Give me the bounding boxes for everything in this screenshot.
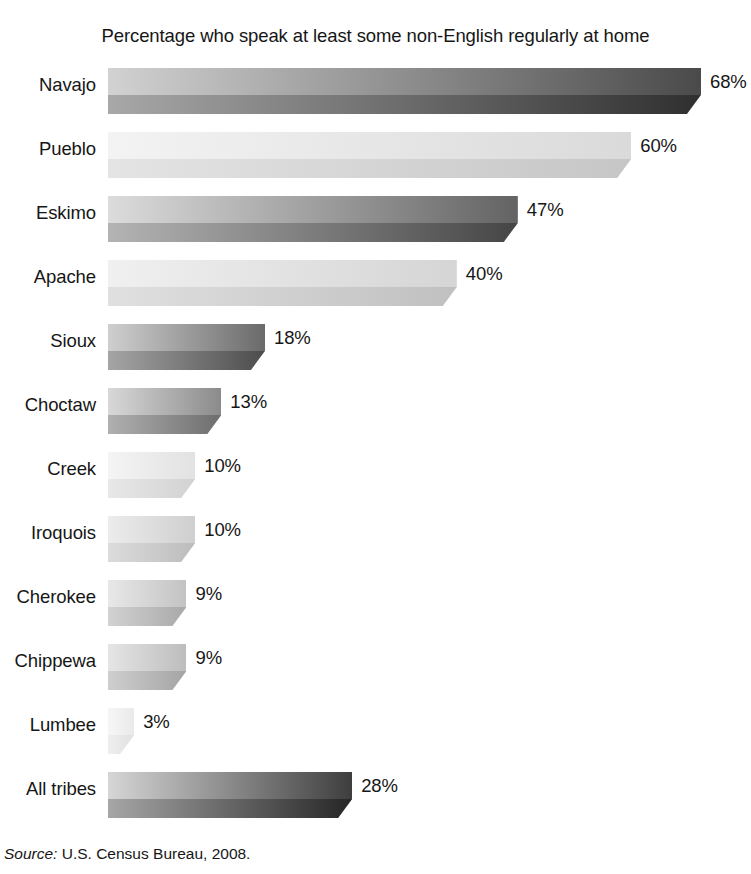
bar[interactable]	[108, 772, 352, 818]
bar-row: Cherokee9%	[0, 574, 751, 630]
bar-bottom-face	[108, 607, 186, 626]
bar-row: Pueblo60%	[0, 126, 751, 182]
bar-value-label: 10%	[204, 455, 241, 477]
bar-top-face	[108, 132, 631, 159]
bar-top-face	[108, 708, 134, 735]
bar-value-label: 28%	[361, 775, 398, 797]
bar-top-face	[108, 196, 518, 223]
bar-row: Chippewa9%	[0, 638, 751, 694]
bar-value-label: 60%	[640, 135, 677, 157]
bar-row: Navajo68%	[0, 62, 751, 118]
bar-category-label: Eskimo	[0, 202, 96, 224]
bar-value-label: 13%	[230, 391, 267, 413]
bar-category-label: Iroquois	[0, 522, 96, 544]
bar[interactable]	[108, 644, 186, 690]
bar-bottom-face	[108, 223, 518, 242]
bar[interactable]	[108, 388, 221, 434]
bar-category-label: Chippewa	[0, 650, 96, 672]
bar-bottom-face	[108, 351, 265, 370]
bar[interactable]	[108, 516, 195, 562]
bar-value-label: 18%	[274, 327, 311, 349]
bar-bottom-face	[108, 735, 134, 754]
bar-bottom-face	[108, 287, 457, 306]
bar-value-label: 9%	[195, 647, 222, 669]
bar-row: Choctaw13%	[0, 382, 751, 438]
bar-bottom-face	[108, 479, 195, 498]
bar-row: All tribes28%	[0, 766, 751, 822]
chart-title: Percentage who speak at least some non-E…	[0, 25, 751, 47]
bar[interactable]	[108, 324, 265, 370]
bar-category-label: All tribes	[0, 778, 96, 800]
source-label: Source:	[4, 845, 57, 862]
bar-value-label: 10%	[204, 519, 241, 541]
bar-category-label: Sioux	[0, 330, 96, 352]
bar-top-face	[108, 324, 265, 351]
bar-top-face	[108, 68, 701, 95]
bar-top-face	[108, 452, 195, 479]
bar-row: Creek10%	[0, 446, 751, 502]
bar-category-label: Cherokee	[0, 586, 96, 608]
bar-category-label: Lumbee	[0, 714, 96, 736]
bar[interactable]	[108, 452, 195, 498]
bar-value-label: 47%	[527, 199, 564, 221]
source-note: Source: U.S. Census Bureau, 2008.	[4, 845, 250, 863]
bar-chart-plot-area: Navajo68%Pueblo60%Eskimo47%Apache40%Siou…	[0, 62, 751, 832]
bar[interactable]	[108, 260, 457, 306]
bar-row: Apache40%	[0, 254, 751, 310]
bar-row: Sioux18%	[0, 318, 751, 374]
bar[interactable]	[108, 132, 631, 178]
bar-value-label: 9%	[195, 583, 222, 605]
bar-top-face	[108, 644, 186, 671]
chart-root: Percentage who speak at least some non-E…	[0, 0, 751, 874]
bar[interactable]	[108, 708, 134, 754]
bar-top-face	[108, 580, 186, 607]
bar-bottom-face	[108, 543, 195, 562]
bar-value-label: 68%	[710, 71, 747, 93]
bar-category-label: Navajo	[0, 74, 96, 96]
source-text: U.S. Census Bureau, 2008.	[57, 845, 250, 862]
bar[interactable]	[108, 68, 701, 114]
bar-bottom-face	[108, 799, 352, 818]
bar-category-label: Apache	[0, 266, 96, 288]
bar-row: Lumbee3%	[0, 702, 751, 758]
bar-bottom-face	[108, 415, 221, 434]
bar-bottom-face	[108, 671, 186, 690]
bar-row: Eskimo47%	[0, 190, 751, 246]
bar-bottom-face	[108, 95, 701, 114]
bar-category-label: Creek	[0, 458, 96, 480]
bar-category-label: Pueblo	[0, 138, 96, 160]
bar-category-label: Choctaw	[0, 394, 96, 416]
bar-top-face	[108, 516, 195, 543]
bar[interactable]	[108, 580, 186, 626]
bar-value-label: 40%	[466, 263, 503, 285]
bar-value-label: 3%	[143, 711, 170, 733]
bar-top-face	[108, 260, 457, 287]
bar-top-face	[108, 388, 221, 415]
bar-row: Iroquois10%	[0, 510, 751, 566]
bar-top-face	[108, 772, 352, 799]
bar-bottom-face	[108, 159, 631, 178]
bar[interactable]	[108, 196, 518, 242]
